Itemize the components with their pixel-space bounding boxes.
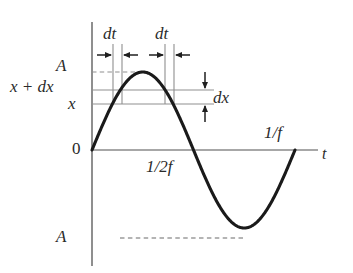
label-origin: 0 xyxy=(72,140,81,157)
vertical-dt-guide-lines xyxy=(113,44,174,104)
label-x-plus-dx: x + dx xyxy=(10,78,54,95)
label-dx: dx xyxy=(213,89,229,106)
label-amplitude-top: A xyxy=(56,57,66,74)
label-full-period: 1/f xyxy=(264,124,282,141)
label-x: x xyxy=(68,95,76,112)
label-amplitude-bottom: A xyxy=(56,228,66,245)
label-dt-left: dt xyxy=(103,25,116,42)
label-time-axis: t xyxy=(322,146,326,162)
label-half-period: 1/2f xyxy=(146,158,172,175)
shm-figure: A x + dx x dx dt dt 0 1/2f 1/f t A xyxy=(0,0,353,273)
label-dt-right: dt xyxy=(155,25,168,42)
shm-plot-canvas xyxy=(0,0,353,273)
axes-group xyxy=(92,22,318,266)
